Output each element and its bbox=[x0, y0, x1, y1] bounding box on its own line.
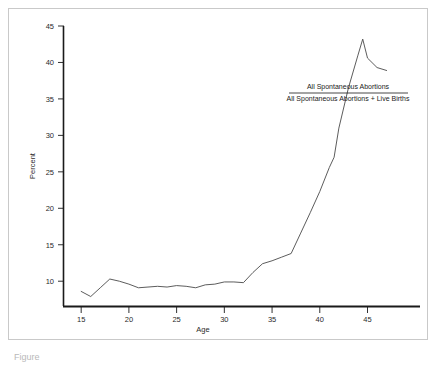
x-tick-label: 15 bbox=[77, 315, 85, 324]
y-tick-label: 10 bbox=[46, 277, 54, 286]
figure-caption: Figure bbox=[14, 352, 40, 362]
x-tick-label: 45 bbox=[363, 315, 371, 324]
y-tick-label: 20 bbox=[46, 204, 54, 213]
chart-canvas: 1015202530354045 15202530354045 Percent … bbox=[0, 0, 438, 366]
x-tick-group: 15202530354045 bbox=[77, 306, 372, 324]
legend-denominator-text: All Spontaneous Abortions + Live Births bbox=[287, 95, 410, 103]
y-tick-label: 30 bbox=[46, 131, 54, 140]
x-tick-label: 25 bbox=[172, 315, 180, 324]
y-tick-label: 35 bbox=[46, 95, 54, 104]
x-axis-title: Age bbox=[196, 325, 209, 334]
x-tick-label: 40 bbox=[316, 315, 324, 324]
legend-fraction: All Spontaneous Abortions All Spontaneou… bbox=[287, 83, 410, 103]
y-tick-label: 25 bbox=[46, 168, 54, 177]
y-tick-label: 15 bbox=[46, 241, 54, 250]
x-tick-label: 35 bbox=[268, 315, 276, 324]
y-axis-title: Percent bbox=[28, 152, 37, 179]
y-tick-group: 1015202530354045 bbox=[46, 22, 64, 286]
x-tick-label: 20 bbox=[125, 315, 133, 324]
x-tick-label: 30 bbox=[220, 315, 228, 324]
data-series-line bbox=[81, 39, 386, 296]
y-tick-label: 45 bbox=[46, 22, 54, 31]
legend-numerator-text: All Spontaneous Abortions bbox=[307, 83, 390, 91]
y-tick-label: 40 bbox=[46, 58, 54, 67]
